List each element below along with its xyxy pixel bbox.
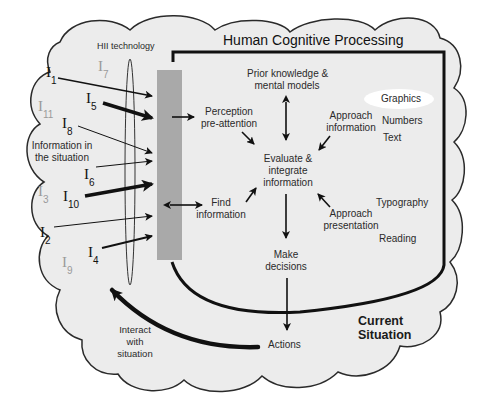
current-situation-label: Current Situation bbox=[358, 314, 411, 342]
node-make-decisions: Make decisions bbox=[258, 249, 314, 273]
situation-label: Information in the situation bbox=[29, 140, 95, 164]
info-item-i1: I1 bbox=[46, 64, 57, 83]
info-type-graphics: Graphics bbox=[381, 93, 421, 105]
node-perception: Perception pre-attention bbox=[198, 106, 260, 130]
info-item-i6: I6 bbox=[84, 166, 95, 185]
hii-technology-label: HII technology bbox=[97, 40, 155, 52]
cognitive-processing-diagram: Human Cognitive Processing HII technolog… bbox=[0, 0, 482, 403]
info-item-i9: I9 bbox=[62, 254, 73, 273]
info-item-i10: I10 bbox=[63, 188, 79, 207]
info-type-text: Text bbox=[383, 132, 401, 144]
info-item-i3: I3 bbox=[38, 183, 49, 202]
node-approach-presentation: Approach presentation bbox=[320, 208, 382, 232]
hii-technology-bar bbox=[157, 70, 182, 260]
info-item-i4: I4 bbox=[88, 244, 99, 263]
interact-with-situation-label: Interact with situation bbox=[112, 324, 158, 360]
node-actions: Actions bbox=[268, 339, 301, 351]
node-approach-information: Approach information bbox=[323, 110, 379, 134]
info-type-numbers: Numbers bbox=[382, 115, 423, 127]
info-item-i8: I8 bbox=[62, 115, 73, 134]
info-item-i2: I2 bbox=[40, 224, 51, 243]
info-item-i7: I7 bbox=[98, 58, 109, 77]
info-item-i5: I5 bbox=[86, 90, 97, 109]
node-evaluate-integrate: Evaluate & integrate information bbox=[256, 153, 320, 189]
presentation-type-reading: Reading bbox=[379, 233, 416, 245]
node-find-information: Find information bbox=[195, 197, 247, 221]
presentation-type-typography: Typography bbox=[376, 197, 428, 209]
node-prior-knowledge: Prior knowledge & mental models bbox=[247, 68, 327, 92]
diagram-title: Human Cognitive Processing bbox=[223, 32, 404, 48]
info-item-i11: I11 bbox=[38, 98, 53, 117]
